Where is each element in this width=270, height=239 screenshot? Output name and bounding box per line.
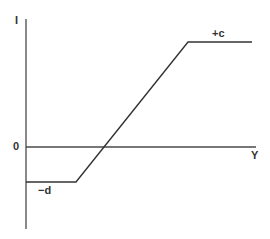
upper-level-label: +c: [212, 27, 225, 39]
origin-label: 0: [13, 140, 19, 152]
saturation-curve: [26, 42, 252, 182]
y-axis-label: I: [15, 14, 18, 26]
x-axis-label: Y: [251, 149, 259, 161]
saturation-diagram: I 0 Y +c −d: [0, 0, 270, 239]
lower-level-label: −d: [38, 184, 51, 196]
